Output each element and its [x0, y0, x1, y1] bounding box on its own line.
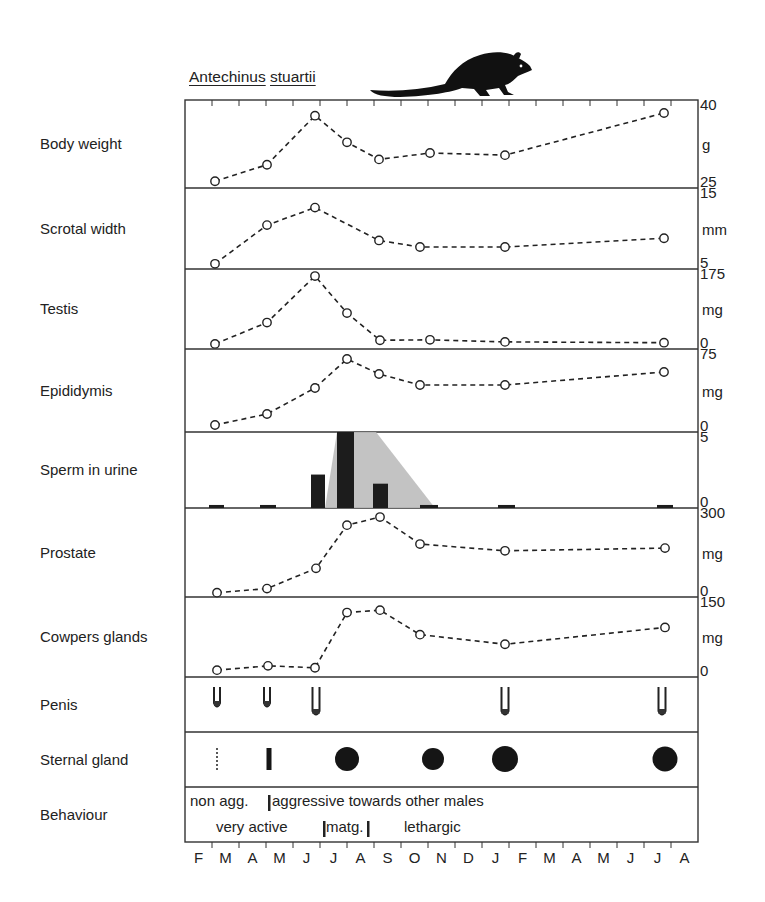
unit-prostate: mg [702, 546, 723, 561]
panel-label-penis: Penis [40, 696, 78, 713]
month-label: F [185, 849, 212, 866]
chart-title: Antechinus stuartii [189, 68, 316, 86]
month-label: A [239, 849, 266, 866]
behaviour-row1-item: aggressive towards other males [272, 792, 484, 809]
ymax-prostate: 300 [700, 505, 725, 520]
panel-label-scrotal-width: Scrotal width [40, 220, 126, 237]
ymin-cowpers-glands: 0 [700, 663, 708, 678]
month-label: M [590, 849, 617, 866]
month-label: F [509, 849, 536, 866]
month-label: J [482, 849, 509, 866]
unit-epididymis: mg [702, 384, 723, 399]
month-label: J [320, 849, 347, 866]
title-genus: Antechinus [189, 68, 266, 85]
panel-label-body-weight: Body weight [40, 135, 122, 152]
panel-label-testis: Testis [40, 300, 78, 317]
ymax-sperm-in-urine: 5 [700, 429, 708, 444]
month-label: M [536, 849, 563, 866]
behaviour-row2-item: lethargic [404, 818, 461, 835]
unit-cowpers-glands: mg [702, 630, 723, 645]
month-label: A [563, 849, 590, 866]
unit-body-weight: g [702, 137, 710, 152]
panel-frames [185, 100, 698, 842]
month-label: N [428, 849, 455, 866]
panel-label-prostate: Prostate [40, 544, 96, 561]
title-species: stuartii [270, 68, 316, 85]
ymax-epididymis: 75 [700, 346, 717, 361]
ymax-scrotal-width: 15 [700, 185, 717, 200]
penis-glyphs [214, 687, 666, 715]
month-label: M [266, 849, 293, 866]
month-label: M [212, 849, 239, 866]
panel-label-cowpers-glands: Cowpers glands [40, 628, 148, 645]
sperm-bars [209, 432, 673, 508]
month-label: A [347, 849, 374, 866]
ymax-testis: 175 [700, 266, 725, 281]
month-label: S [374, 849, 401, 866]
panel-label-behaviour: Behaviour [40, 806, 108, 823]
month-label: D [455, 849, 482, 866]
behaviour-row2-item: very active [216, 818, 288, 835]
sternal-gland-markers [217, 746, 678, 772]
month-label: J [617, 849, 644, 866]
month-ticks [212, 100, 671, 848]
data-lines [211, 109, 669, 675]
month-label: J [644, 849, 671, 866]
month-label: A [671, 849, 698, 866]
unit-testis: mg [702, 302, 723, 317]
panel-label-sperm-in-urine: Sperm in urine [40, 461, 138, 478]
behaviour-row1-item: non agg. [190, 792, 248, 809]
behaviour-row2-item: matg. [326, 818, 364, 835]
panel-label-epididymis: Epididymis [40, 382, 113, 399]
mouse-silhouette-icon [370, 52, 532, 97]
month-label: J [293, 849, 320, 866]
panel-label-sternal-gland: Sternal gland [40, 751, 128, 768]
month-label: O [401, 849, 428, 866]
ymax-body-weight: 40 [700, 97, 717, 112]
ymax-cowpers-glands: 150 [700, 594, 725, 609]
unit-scrotal-width: mm [702, 222, 727, 237]
